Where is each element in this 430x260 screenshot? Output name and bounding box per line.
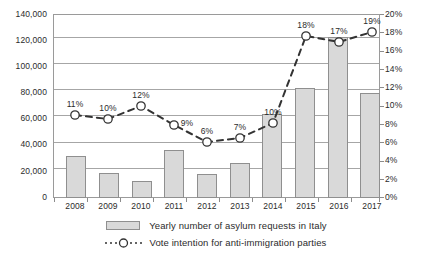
y-axis-right-tick: 20% [385, 10, 429, 19]
bar-2013 [230, 163, 250, 198]
y-axis-left-tick: 80,000 [0, 88, 47, 97]
y-axis-left-tick: 0 [0, 193, 47, 202]
y-axis-left-tick: 120,000 [0, 36, 47, 45]
bar-2009 [99, 173, 119, 198]
bar-2012 [197, 174, 217, 198]
chart-legend: Yearly number of asylum requests in Ital… [0, 217, 430, 251]
y-axis-left-tick: 60,000 [0, 114, 47, 123]
data-label-2008: 11% [60, 100, 90, 109]
x-axis-tick-2017: 2017 [352, 202, 392, 211]
y-axis-right-tick: 16% [385, 46, 429, 55]
y-axis-right-tick: 6% [385, 138, 429, 147]
chart-container: 140,000 120,000 100,000 80,000 60,000 40… [0, 0, 430, 260]
y-axis-right-tick: 0% [385, 193, 429, 202]
y-axis-left-tick: 100,000 [0, 62, 47, 71]
tick-mark [380, 179, 384, 180]
y-axis-right-tick: 10% [385, 101, 429, 110]
data-label-2010: 12% [126, 91, 156, 100]
legend-item-line[interactable]: Vote intention for anti-immigration part… [0, 234, 430, 251]
y-axis-right-tick: 12% [385, 83, 429, 92]
bar-2017 [360, 93, 380, 198]
y-axis-left-tick: 140,000 [0, 10, 47, 19]
bar-2008 [66, 156, 86, 198]
tick-mark [380, 14, 384, 15]
bar-2014 [262, 114, 282, 198]
tick-mark [380, 32, 384, 33]
legend-label-bars: Yearly number of asylum requests in Ital… [149, 220, 326, 231]
tick-mark [380, 69, 384, 70]
legend-dashed-line-marker-icon [104, 237, 144, 249]
y-axis-left-tick: 20,000 [0, 167, 47, 176]
y-axis-right-tick: 4% [385, 156, 429, 165]
tick-mark [380, 161, 384, 162]
y-axis-right-tick: 2% [385, 175, 429, 184]
data-label-2009: 10% [93, 104, 123, 113]
legend-item-bars[interactable]: Yearly number of asylum requests in Ital… [0, 217, 430, 234]
y-axis-left-tick: 40,000 [0, 140, 47, 149]
tick-mark [380, 87, 384, 88]
bar-2011 [164, 150, 184, 198]
data-label-2012: 6% [192, 127, 222, 136]
bar-2015 [295, 88, 315, 198]
data-label-2017: 19% [357, 17, 387, 26]
y-axis-right-tick: 14% [385, 65, 429, 74]
legend-label-line: Vote intention for anti-immigration part… [150, 237, 327, 248]
tick-mark [380, 124, 384, 125]
legend-bar-swatch-icon [103, 221, 143, 230]
data-label-2014: 10% [258, 108, 288, 117]
tick-mark [380, 106, 384, 107]
data-label-2016: 17% [324, 27, 354, 36]
y-axis-right-tick: 18% [385, 28, 429, 37]
y-axis-right-tick: 8% [385, 120, 429, 129]
data-label-2015: 18% [291, 21, 321, 30]
bar-2010 [132, 181, 152, 198]
data-label-2013: 7% [225, 123, 255, 132]
tick-mark [380, 142, 384, 143]
tick-mark [380, 51, 384, 52]
bar-2016 [328, 37, 348, 198]
tick-mark [380, 197, 384, 198]
